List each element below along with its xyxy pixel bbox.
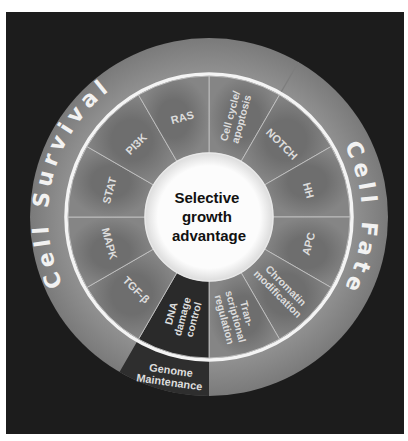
center-circle: Selective growth advantage (145, 153, 273, 281)
center-line-2: growth (182, 208, 232, 225)
center-line-1: Selective (174, 189, 239, 206)
center-label: Selective growth advantage (172, 189, 246, 244)
center-line-3: advantage (172, 227, 246, 244)
cancer-pathway-wheel: Cell SurvivalCell FateGenomeMaintenance … (0, 0, 408, 441)
